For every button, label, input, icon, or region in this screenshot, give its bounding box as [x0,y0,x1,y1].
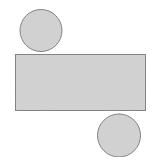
figure-canvas [0,0,152,168]
top-left-circle [20,10,62,52]
center-rectangle [16,55,146,111]
bottom-right-circle [98,114,141,157]
shapes-diagram [0,0,152,168]
